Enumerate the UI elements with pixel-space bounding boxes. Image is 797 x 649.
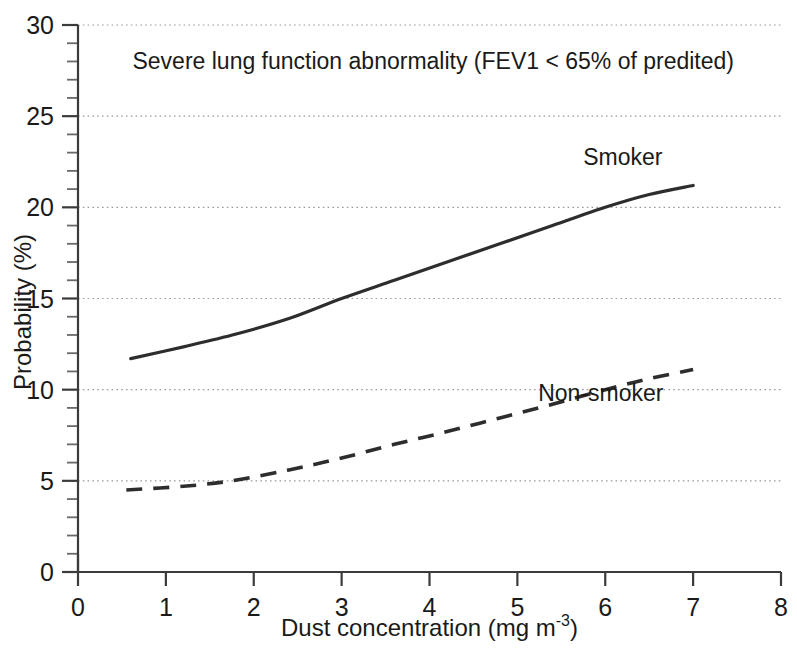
x-tick-label-1: 1 [159,593,173,621]
y-tick-label-20: 20 [26,193,54,221]
series-label-non-smoker: Non-smoker [538,380,664,406]
y-axis-major-ticks [62,25,78,572]
y-tick-label-25: 25 [26,102,54,130]
series-line-smoker [131,185,693,358]
y-tick-label-30: 30 [26,11,54,39]
x-axis-title-superscript: -3 [556,612,570,629]
line-chart-canvas: 051015202530 012345678 Severe lung funct… [0,0,797,649]
y-axis-title: Probability (%) [9,234,36,390]
x-tick-label-6: 6 [598,593,612,621]
chart-figure: 051015202530 012345678 Severe lung funct… [0,0,797,649]
x-axis-title: Dust concentration (mg m [281,614,556,641]
plot-title: Severe lung function abnormality (FEV1 <… [132,48,734,74]
x-axis-title-group: Dust concentration (mg m -3 ) [281,612,578,641]
x-axis-title-tail: ) [570,614,578,641]
gridlines-group [78,25,781,481]
y-tick-label-5: 5 [40,467,54,495]
x-axis-major-ticks [78,554,693,586]
x-tick-label-0: 0 [71,593,85,621]
x-tick-label-7: 7 [686,593,700,621]
series-label-smoker: Smoker [583,144,663,170]
y-tick-label-0: 0 [40,558,54,586]
x-tick-label-8: 8 [774,593,788,621]
x-tick-label-2: 2 [247,593,261,621]
